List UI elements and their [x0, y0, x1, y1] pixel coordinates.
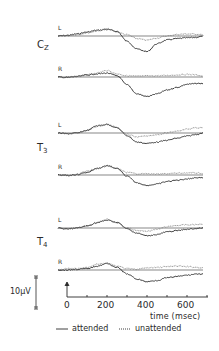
- trace-t3-l-attended: [58, 124, 203, 144]
- trace-t3-l-unattended: [58, 124, 203, 137]
- site-sub: Z: [44, 44, 49, 52]
- channel-label-cz-l: L: [58, 25, 61, 31]
- erp-figure: [0, 0, 219, 351]
- site-label-cz: CZ: [37, 40, 49, 52]
- legend-unattended-label: unattended: [135, 325, 181, 333]
- site-sub: 3: [43, 147, 47, 155]
- time-axis: [65, 282, 208, 297]
- legend-attended-label: attended: [72, 325, 108, 333]
- scale-bar-label: 10µV: [10, 288, 31, 296]
- trace-cz-l-attended: [58, 29, 203, 52]
- baselines: [58, 36, 203, 270]
- tick-label-0: 0: [64, 301, 70, 310]
- scale-bar: [34, 276, 38, 309]
- site-label-t3: T3: [37, 143, 48, 155]
- channel-label-t3-l: L: [58, 122, 61, 128]
- trace-cz-r-unattended: [58, 70, 203, 78]
- tick-label-400: 400: [137, 301, 154, 310]
- x-axis-label: time (msec): [150, 313, 200, 321]
- channel-label-t4-r: R: [58, 259, 62, 265]
- tick-label-600: 600: [177, 301, 194, 310]
- site-label-t4: T4: [37, 237, 48, 249]
- channel-label-cz-r: R: [58, 66, 62, 72]
- site-main: C: [37, 39, 44, 50]
- tick-label-200: 200: [97, 301, 114, 310]
- trace-t3-r-attended: [58, 165, 203, 186]
- channel-label-t3-r: R: [58, 164, 62, 170]
- waveform-traces: [58, 28, 203, 282]
- site-sub: 4: [43, 241, 47, 249]
- channel-label-t4-l: L: [58, 217, 61, 223]
